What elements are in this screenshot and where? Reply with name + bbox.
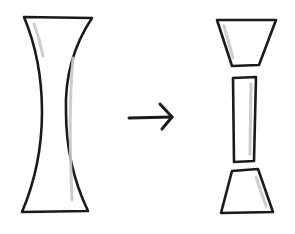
- transform-arrow-icon: [129, 104, 172, 129]
- top-trapezoid-piece: [217, 20, 276, 66]
- bottom-trapezoid-piece: [221, 169, 273, 213]
- concave-column-shape: [22, 17, 92, 212]
- diagram-canvas: [0, 0, 295, 234]
- middle-rectangle-piece: [233, 77, 256, 162]
